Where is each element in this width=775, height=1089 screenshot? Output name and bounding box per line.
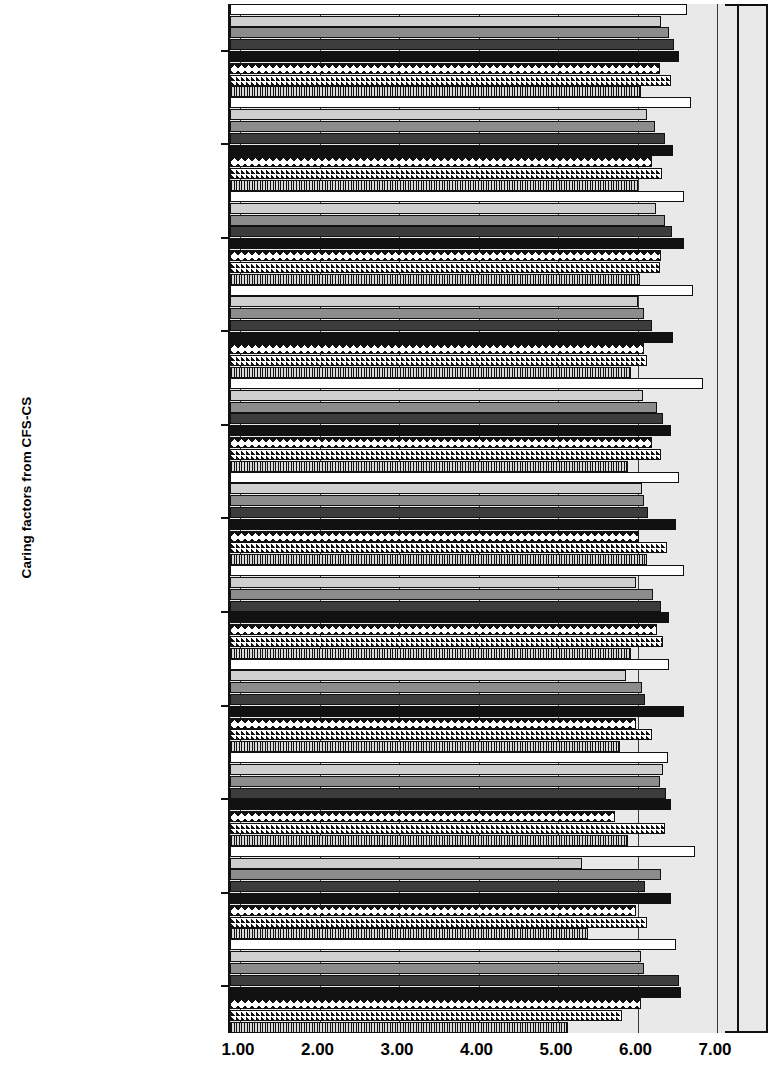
category-tick	[221, 143, 230, 145]
bar-solid-dark-gray	[230, 694, 645, 705]
x-tick-label: 3.00	[380, 1040, 413, 1060]
bar-vertical-hatch	[230, 917, 647, 928]
bar-solid-medium-gray	[230, 589, 653, 600]
bar-group: Promote expression of feelings *	[230, 659, 725, 753]
bar-solid-light-gray	[230, 390, 643, 401]
bar-solid-white	[230, 285, 693, 296]
bar-diagonal-hatch	[230, 531, 639, 542]
bar-solid-light-gray	[230, 951, 641, 962]
bar-dotted	[230, 741, 620, 752]
bar-diamond-triangle	[230, 238, 684, 249]
bar-vertical-hatch	[230, 75, 671, 86]
category-tick	[221, 424, 230, 426]
bar-vertical-hatch	[230, 729, 652, 740]
bar-solid-light-gray	[230, 858, 582, 869]
chart-figure: Caring factors from CFS-CS Teaching and …	[0, 0, 775, 1089]
bar-solid-dark-gray	[230, 975, 679, 986]
bar-diagonal-hatch	[230, 998, 641, 1009]
bar-diagonal-hatch	[230, 250, 661, 261]
bar-solid-dark-gray	[230, 39, 674, 50]
bar-diamond-triangle	[230, 612, 669, 623]
bar-solid-light-gray	[230, 109, 647, 120]
category-tick	[221, 985, 230, 987]
bar-solid-dark-gray	[230, 226, 672, 237]
bar-solid-light-gray	[230, 16, 661, 27]
bar-solid-dark-gray	[230, 788, 666, 799]
bar-group: Helping and trusting relationship	[230, 98, 725, 192]
bar-diamond-triangle	[230, 893, 671, 904]
bar-solid-white	[230, 752, 668, 763]
category-tick	[221, 50, 230, 52]
bar-solid-white	[230, 97, 691, 108]
bar-group: Holistic care *	[230, 846, 725, 940]
x-tick-label: 7.00	[698, 1040, 731, 1060]
bar-solid-medium-gray	[230, 308, 644, 319]
category-tick	[221, 517, 230, 519]
bar-dotted	[230, 367, 631, 378]
bar-solid-dark-gray	[230, 133, 665, 144]
bar-solid-dark-gray	[230, 320, 652, 331]
bar-group: CFS-CS total *	[230, 565, 725, 659]
category-tick	[221, 705, 230, 707]
bar-group: Miracles *	[230, 378, 725, 472]
bar-dotted	[230, 648, 631, 659]
bar-solid-dark-gray	[230, 601, 661, 612]
x-tick-label: 2.00	[301, 1040, 334, 1060]
bar-diamond-triangle	[230, 706, 684, 717]
x-tick-label: 4.00	[460, 1040, 493, 1060]
category-tick	[221, 798, 230, 800]
bar-solid-white	[230, 4, 687, 15]
bar-solid-medium-gray	[230, 869, 661, 880]
bar-solid-white	[230, 565, 684, 576]
bar-vertical-hatch	[230, 262, 660, 273]
x-tick-label: 1.00	[221, 1040, 254, 1060]
bar-diagonal-hatch	[230, 343, 644, 354]
plot-area: Teaching and learningHelping and trustin…	[228, 4, 725, 1033]
x-tick-label: 6.00	[619, 1040, 652, 1060]
bar-group: Healing environment *	[230, 472, 725, 566]
bar-group: Decision making *	[230, 285, 725, 379]
bar-diamond-triangle	[230, 425, 671, 436]
bar-solid-white	[230, 191, 684, 202]
bar-solid-medium-gray	[230, 682, 642, 693]
bar-diagonal-hatch	[230, 811, 615, 822]
bar-solid-dark-gray	[230, 413, 663, 424]
category-tick	[221, 611, 230, 613]
bar-solid-white	[230, 378, 703, 389]
bar-diamond-triangle	[230, 332, 673, 343]
bar-group: Instill faith and hope	[230, 191, 725, 285]
bar-diamond-triangle	[230, 799, 671, 810]
bar-diagonal-hatch	[230, 437, 652, 448]
bar-dotted	[230, 274, 640, 285]
bar-group: Spiritual beliefs and practices	[230, 752, 725, 846]
bar-solid-light-gray	[230, 203, 656, 214]
bar-solid-medium-gray	[230, 27, 669, 38]
bar-solid-medium-gray	[230, 495, 644, 506]
bar-solid-dark-gray	[230, 881, 645, 892]
bar-dotted	[230, 554, 647, 565]
bar-solid-medium-gray	[230, 121, 655, 132]
bar-diagonal-hatch	[230, 156, 652, 167]
bar-diamond-triangle	[230, 145, 673, 156]
bar-diagonal-hatch	[230, 624, 657, 635]
bar-diamond-triangle	[230, 519, 676, 530]
bar-vertical-hatch	[230, 542, 667, 553]
bar-vertical-hatch	[230, 168, 662, 179]
bar-dotted	[230, 835, 628, 846]
bar-diagonal-hatch	[230, 63, 660, 74]
x-tick-label: 5.00	[539, 1040, 572, 1060]
bar-solid-medium-gray	[230, 402, 657, 413]
bar-dotted	[230, 86, 641, 97]
bar-diagonal-hatch	[230, 718, 636, 729]
bar-vertical-hatch	[230, 823, 665, 834]
bar-dotted	[230, 461, 628, 472]
bar-solid-dark-gray	[230, 507, 648, 518]
bar-solid-light-gray	[230, 483, 642, 494]
bar-diamond-triangle	[230, 51, 679, 62]
y-axis-title: Caring factors from CFS-CS	[19, 378, 34, 598]
bar-solid-light-gray	[230, 296, 638, 307]
bar-vertical-hatch	[230, 1010, 622, 1021]
category-tick	[221, 237, 230, 239]
bar-solid-white	[230, 939, 676, 950]
bar-group: Teaching and learning	[230, 4, 725, 98]
